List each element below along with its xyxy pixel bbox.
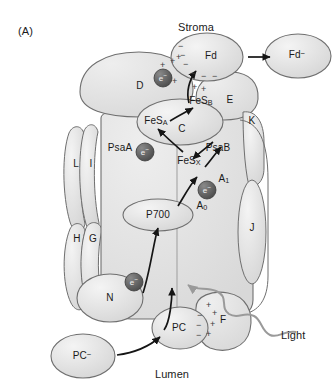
- svg-text:−: −: [196, 330, 201, 340]
- cofactor-label-fes-a: FeSA: [144, 116, 168, 127]
- subunit-label-k: K: [249, 116, 256, 126]
- svg-text:+: +: [170, 56, 175, 66]
- cofactor-label-a0: A0: [197, 201, 208, 212]
- electron-marker-label-2: e−: [141, 147, 149, 156]
- subunit-label-psab: PsaB: [206, 143, 230, 153]
- carrier-label-fd: Fd: [205, 51, 217, 61]
- svg-text:+: +: [206, 300, 211, 310]
- svg-text:−: −: [201, 71, 206, 81]
- electron-marker-label-1: e−: [159, 73, 167, 82]
- svg-text:+: +: [160, 60, 165, 70]
- compartment-label-lumen: Lumen: [155, 369, 189, 380]
- svg-text:−: −: [196, 320, 201, 330]
- svg-text:+: +: [201, 84, 206, 94]
- cofactor-label-a1: A1: [219, 174, 230, 185]
- compartment-label-stroma: Stroma: [178, 22, 214, 33]
- subunit-label-i: I: [90, 159, 93, 169]
- subunit-label-h: H: [73, 234, 80, 244]
- svg-text:+: +: [210, 319, 215, 329]
- svg-text:−: −: [183, 59, 188, 69]
- svg-text:+: +: [192, 82, 197, 92]
- arrow-pc-minus-to-pc: [117, 337, 160, 355]
- subunit-label-j: J: [249, 223, 254, 233]
- subunit-label-c: C: [178, 124, 185, 134]
- svg-text:−: −: [212, 71, 217, 81]
- carrier-label-pc: PC: [172, 323, 186, 333]
- subunit-label-f: F: [220, 315, 226, 325]
- subunit-label-n: N: [106, 293, 113, 303]
- electron-marker-label-4: e−: [130, 277, 138, 286]
- electron-marker-label-3: e−: [203, 185, 211, 194]
- subunit-label-d: D: [136, 81, 143, 91]
- subunit-label-psaa: PsaA: [108, 143, 132, 153]
- svg-text:+: +: [206, 329, 211, 339]
- subunit-label-e: E: [227, 95, 234, 105]
- svg-text:+: +: [176, 52, 181, 62]
- svg-text:−: −: [190, 68, 195, 78]
- panel-label: (A): [18, 26, 33, 37]
- svg-text:−: −: [197, 310, 202, 320]
- subunit-label-g: G: [89, 234, 97, 244]
- figure-panel: −−− −−− ++ +++ + −−− ++++ (A) Stroma Lum…: [0, 0, 336, 389]
- cofactor-label-p700: P700: [146, 210, 170, 220]
- carrier-label-fd-minus: Fd−: [289, 50, 306, 61]
- light-label: Light: [281, 330, 305, 341]
- cofactor-label-fes-b: FeSB: [189, 96, 213, 107]
- cofactor-label-fes-x: FeSX: [177, 156, 201, 167]
- svg-text:+: +: [172, 76, 177, 86]
- subunit-label-l: L: [73, 159, 79, 169]
- svg-text:+: +: [212, 308, 217, 318]
- carrier-label-pc-minus: PC−: [73, 351, 92, 362]
